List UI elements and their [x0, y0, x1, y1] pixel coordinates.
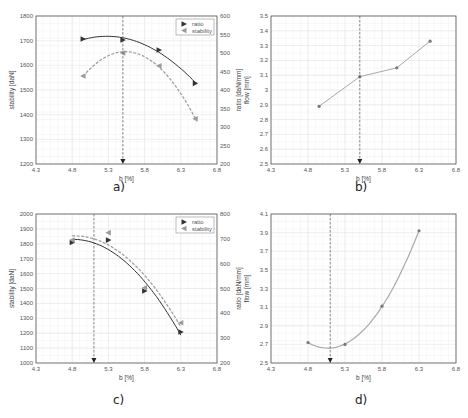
svg-text:5.3: 5.3 [104, 167, 113, 173]
series-stability [80, 50, 198, 121]
x-tick-labels: 4.34.85.35.86.36.8 [267, 167, 461, 173]
svg-text:6.3: 6.3 [177, 167, 186, 173]
svg-text:3.1: 3.1 [260, 304, 269, 310]
svg-text:1100: 1100 [20, 345, 34, 351]
caption-d: d) [355, 393, 367, 407]
svg-text:5.8: 5.8 [378, 366, 387, 372]
caption-a: a) [113, 180, 125, 194]
svg-text:5.8: 5.8 [140, 366, 149, 372]
svg-text:1200: 1200 [20, 161, 34, 167]
svg-text:200: 200 [220, 360, 231, 366]
chart-panel-c: 4.34.85.35.86.36.81000110012001300140015… [0, 209, 234, 418]
arrow-down-icon [357, 159, 362, 164]
svg-text:200: 200 [220, 161, 231, 167]
x-tick-labels: 4.34.85.35.86.36.8 [267, 366, 461, 372]
y-axis-label: stability [daN] [8, 269, 16, 308]
svg-text:4.3: 4.3 [32, 167, 41, 173]
x-tick-labels: 4.34.85.35.86.36.8 [32, 366, 222, 372]
svg-text:250: 250 [220, 143, 231, 149]
svg-text:1500: 1500 [20, 87, 34, 93]
chart-panel-d: 4.34.85.35.86.36.82.52.72.93.13.33.53.73… [234, 209, 468, 418]
svg-text:2.7: 2.7 [260, 341, 269, 347]
y-right-tick-labels: 200300400500600700800 [220, 211, 231, 366]
chart-panel-a: 4.34.85.35.86.36.81200130014001500160017… [0, 0, 234, 209]
svg-text:2.5: 2.5 [260, 360, 269, 366]
arrow-down-icon [328, 358, 333, 363]
svg-text:1500: 1500 [20, 286, 34, 292]
svg-text:2.6: 2.6 [260, 146, 269, 152]
svg-text:400: 400 [220, 310, 231, 316]
svg-text:4.8: 4.8 [304, 366, 313, 372]
svg-text:6.3: 6.3 [415, 167, 424, 173]
svg-text:4.8: 4.8 [304, 167, 313, 173]
svg-text:2000: 2000 [20, 211, 34, 217]
svg-text:1900: 1900 [20, 226, 34, 232]
svg-text:1600: 1600 [20, 271, 34, 277]
grid [36, 214, 217, 363]
svg-text:500: 500 [220, 286, 231, 292]
svg-text:6.8: 6.8 [213, 167, 222, 173]
y-tick-labels: 1200130014001500160017001800 [20, 13, 34, 167]
svg-text:700: 700 [220, 236, 231, 242]
svg-text:2.9: 2.9 [260, 102, 269, 108]
svg-text:3.5: 3.5 [260, 13, 269, 19]
y-tick-labels: 2.52.62.72.82.933.13.23.33.43.5 [260, 13, 269, 167]
arrow-down-icon [120, 159, 125, 164]
x-tick-labels: 4.34.85.35.86.36.8 [32, 167, 222, 173]
svg-text:4.3: 4.3 [267, 167, 276, 173]
legend: ratiostability [176, 19, 214, 35]
svg-text:6.3: 6.3 [415, 366, 424, 372]
svg-text:300: 300 [220, 335, 231, 341]
svg-text:6.8: 6.8 [452, 167, 461, 173]
svg-text:3.9: 3.9 [260, 230, 269, 236]
svg-text:2.7: 2.7 [260, 131, 269, 137]
chart-a-svg: 4.34.85.35.86.36.81200130014001500160017… [0, 0, 234, 209]
svg-text:6.8: 6.8 [213, 366, 222, 372]
svg-text:1700: 1700 [20, 256, 34, 262]
svg-text:800: 800 [220, 211, 231, 217]
legend-label-stability: stability [192, 28, 212, 34]
svg-text:1300: 1300 [20, 136, 34, 142]
svg-text:4.8: 4.8 [68, 167, 77, 173]
x-axis-label: b [%] [119, 374, 134, 382]
svg-text:2.5: 2.5 [260, 161, 269, 167]
svg-text:1400: 1400 [20, 300, 34, 306]
svg-text:5.8: 5.8 [378, 167, 387, 173]
chart-b-svg: 4.34.85.35.86.36.82.52.62.72.82.933.13.2… [234, 0, 468, 209]
svg-text:3.4: 3.4 [260, 28, 269, 34]
svg-text:1800: 1800 [20, 13, 34, 19]
svg-text:5.3: 5.3 [341, 167, 350, 173]
svg-text:600: 600 [220, 13, 231, 19]
chart-c-svg: 4.34.85.35.86.36.81000110012001300140015… [0, 209, 234, 418]
svg-text:1400: 1400 [20, 112, 34, 118]
svg-text:500: 500 [220, 50, 231, 56]
svg-text:3.3: 3.3 [260, 286, 269, 292]
svg-text:4.8: 4.8 [68, 366, 77, 372]
svg-text:2.9: 2.9 [260, 323, 269, 329]
caption-c: c) [113, 393, 124, 407]
svg-text:1600: 1600 [20, 62, 34, 68]
x-axis-label: b [%] [356, 374, 371, 382]
svg-text:300: 300 [220, 124, 231, 130]
svg-text:550: 550 [220, 32, 231, 38]
svg-text:600: 600 [220, 261, 231, 267]
svg-text:1700: 1700 [20, 38, 34, 44]
svg-text:1200: 1200 [20, 330, 34, 336]
svg-text:2.8: 2.8 [260, 117, 269, 123]
chart-panel-b: 4.34.85.35.86.36.82.52.62.72.82.933.13.2… [234, 0, 468, 209]
svg-text:1000: 1000 [20, 360, 34, 366]
grid [271, 214, 456, 363]
svg-text:1300: 1300 [20, 315, 34, 321]
svg-text:4.1: 4.1 [260, 211, 269, 217]
svg-text:3: 3 [265, 87, 269, 93]
grid [271, 16, 456, 164]
svg-text:3.7: 3.7 [260, 248, 269, 254]
svg-text:3.1: 3.1 [260, 72, 269, 78]
y-tick-labels: 2.52.72.93.13.33.53.73.94.1 [260, 211, 269, 366]
svg-text:450: 450 [220, 69, 231, 75]
y-axis-label: flow [mm] [243, 274, 251, 302]
svg-text:350: 350 [220, 106, 231, 112]
svg-text:3.2: 3.2 [260, 57, 269, 63]
y-axis-label: stability [daN] [8, 70, 16, 109]
svg-text:5.3: 5.3 [104, 366, 113, 372]
